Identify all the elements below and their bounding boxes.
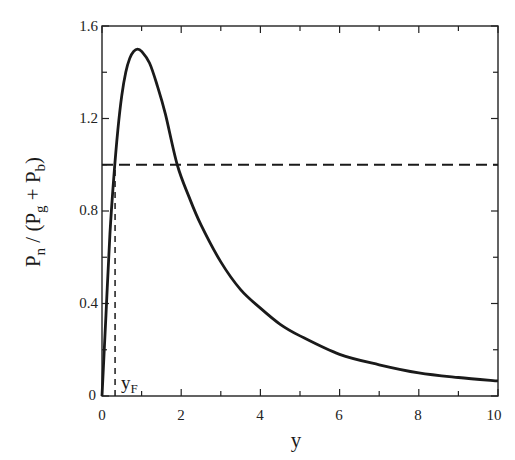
plot-frame	[102, 26, 498, 396]
x-tick-label: 10	[487, 407, 502, 423]
x-axis-title: y	[291, 428, 302, 452]
x-tick-label: 8	[414, 407, 422, 423]
x-tick-label: 6	[335, 407, 343, 423]
axis-ticks	[102, 26, 498, 396]
x-tick-labels: 0 2 4 6 8 10	[98, 407, 501, 423]
y-tick-label: 0.8	[79, 202, 98, 218]
data-series	[102, 49, 498, 396]
y-axis-title: Pn / (Pg + Pb)	[21, 157, 48, 267]
x-tick-label: 0	[98, 407, 106, 423]
y-tick-label: 0	[89, 387, 97, 403]
x-tick-label: 2	[177, 407, 185, 423]
y-tick-label: 1.6	[79, 18, 98, 34]
y-tick-label: 1.2	[79, 110, 98, 126]
yf-annotation: yF	[121, 372, 138, 396]
main-curve	[102, 49, 498, 396]
chart: 0 2 4 6 8 10 0 0.4 0.8 1.2 1.6 y Pn / (P…	[0, 0, 515, 460]
y-tick-labels: 0 0.4 0.8 1.2 1.6	[79, 18, 98, 403]
y-tick-label: 0.4	[79, 295, 98, 311]
x-tick-label: 4	[256, 407, 264, 423]
